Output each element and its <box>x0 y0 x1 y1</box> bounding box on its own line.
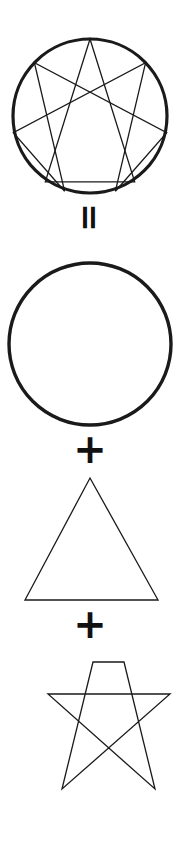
plus-glyph-1: + <box>73 426 107 472</box>
plain-circle <box>9 263 171 425</box>
equals-glyph: = <box>73 203 107 233</box>
enneagram-circle <box>13 39 167 193</box>
enneagram-triangle <box>45 39 134 182</box>
figure-stack: = + + <box>0 0 180 844</box>
operator-plus-2: + <box>0 604 180 644</box>
hexad-figure <box>0 652 180 804</box>
plain-hexad <box>48 662 170 789</box>
operator-plus-1: + <box>0 429 180 469</box>
operator-equals: = <box>0 201 180 235</box>
enneagram-figure <box>0 0 180 200</box>
plain-triangle <box>25 478 158 600</box>
circle-figure <box>0 260 180 430</box>
triangle-figure <box>0 470 180 608</box>
plus-glyph-2: + <box>73 601 107 647</box>
